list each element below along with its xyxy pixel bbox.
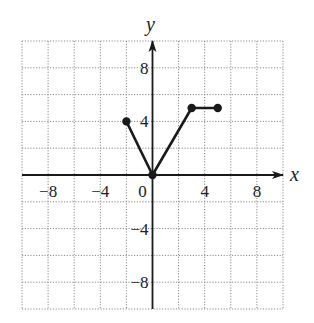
- x-tick-label: 8: [253, 182, 262, 201]
- data-point-marker: [214, 104, 222, 112]
- data-point-marker: [148, 171, 156, 179]
- y-axis-label: y: [144, 13, 155, 36]
- y-tick-label: −4: [130, 220, 149, 239]
- y-tick-label: −8: [130, 273, 148, 292]
- x-tick-label: −4: [91, 182, 110, 201]
- x-tick-label: −8: [39, 182, 57, 201]
- x-tick-label: 0: [138, 182, 147, 201]
- data-point-marker: [187, 104, 195, 112]
- x-tick-label: 4: [200, 182, 209, 201]
- data-series: [122, 104, 222, 179]
- y-tick-label: 8: [140, 59, 149, 78]
- data-point-marker: [122, 117, 130, 125]
- x-axis-label: x: [289, 163, 299, 185]
- coordinate-plane: −8−404884−4−8 x y: [0, 0, 314, 323]
- y-tick-label: 4: [140, 112, 149, 131]
